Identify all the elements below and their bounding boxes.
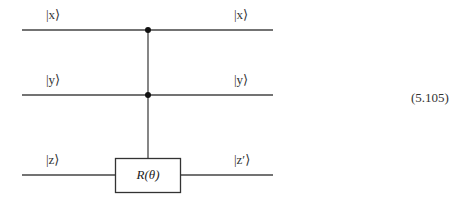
output-label-x: |x⟩ [234,7,248,23]
output-label-z-prime: |z′⟩ [234,152,250,168]
input-label-y: |y⟩ [46,72,60,88]
input-label-x: |x⟩ [46,7,60,23]
gate-label: R(θ) [116,167,180,183]
input-label-z: |z⟩ [46,152,59,168]
output-label-y: |y⟩ [234,72,248,88]
control-dot-x [145,27,151,33]
equation-number: (5.105) [411,90,449,106]
control-dot-y [145,92,151,98]
circuit-canvas [0,0,470,198]
